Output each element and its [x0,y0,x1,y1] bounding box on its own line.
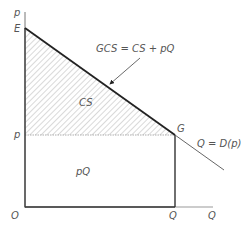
revenue-label: pQ [75,166,90,177]
gcs-formula-label: GCS = CS + pQ [96,43,175,54]
quantity-tick-label: Q [169,210,177,221]
x-axis-label: Q [208,210,216,221]
consumer-surplus-label: CS [79,97,93,108]
gcs-arrow [110,58,140,84]
origin-label: O [11,210,19,221]
point-e-label: E [14,23,21,34]
y-axis-label: p [13,7,20,18]
consumer-surplus-diagram: p E p O Q Q G Q = D(p) GCS = CS + pQ CS … [0,0,250,233]
price-tick-label: p [13,129,20,140]
demand-curve-label: Q = D(p) [197,138,241,149]
point-g-label: G [177,123,185,134]
